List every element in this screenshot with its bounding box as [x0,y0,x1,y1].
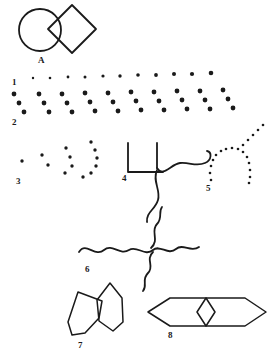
dot [180,98,185,103]
dot [93,148,96,151]
dot [95,156,98,159]
dot [226,97,231,102]
dot [231,106,236,111]
dot [81,175,84,178]
figure-label-1: 1 [12,78,17,87]
dot [247,139,250,142]
dot [220,150,223,153]
dot [262,124,265,127]
dot [212,159,215,162]
dot [88,100,93,105]
dot [248,182,251,185]
dot [221,88,226,93]
dot [172,72,176,76]
dot [237,148,240,151]
panel-5-dotted-arc [209,124,265,185]
dot [246,156,249,159]
dot-triplet [37,92,52,115]
figure-plate: A 1 2 3 4 5 6 7 8 [0,0,273,356]
dot-triplet [175,89,190,112]
dot [22,110,27,115]
dot [37,92,42,97]
dot [49,77,52,80]
dot [65,101,70,106]
dot [210,179,213,182]
dot [129,90,134,95]
dot [139,108,144,113]
panel-1-dot-row [32,71,214,80]
dot [93,109,98,114]
dot [136,73,140,77]
dot [231,147,234,150]
dot [225,148,228,151]
dot [83,91,88,96]
dot-triplet [129,90,144,113]
figure-label-3: 3 [16,177,21,186]
dot [162,108,167,113]
dot [152,90,157,95]
inner-diamond [197,298,215,326]
dot-triplet [83,91,98,114]
dot [157,99,162,104]
dot [70,110,75,115]
figure-label-4: 4 [122,174,127,183]
dot-triplet [106,91,121,114]
circle-shape [19,9,61,51]
dot-triplet [221,88,236,111]
dot [20,159,23,162]
dot-cluster [20,159,23,162]
diamond-shape [48,5,96,53]
dot [46,163,49,166]
dot [118,74,121,77]
dot [257,129,260,132]
wave-lower-branch [143,252,153,291]
dot [209,172,212,175]
figure-label-7: 7 [78,341,83,350]
dot [134,99,139,104]
dot [175,89,180,94]
dot [252,134,255,137]
dot [32,77,34,79]
dot-triplet [60,92,75,115]
dot [208,107,213,112]
dot [185,107,190,112]
dot [154,73,158,77]
wave-upper-branch [151,207,162,248]
dot [42,101,47,106]
panel-8-hexagon [148,298,266,326]
dot-triplet [198,89,213,112]
wave-horizontal [79,247,199,252]
dot [94,164,97,167]
figure-label-5: 5 [206,184,211,193]
figure-label-8: 8 [168,331,173,340]
dot [12,92,17,97]
dot-triplet [12,92,27,115]
dot-cluster [63,146,73,174]
panel-4-bracket-wave [128,143,211,222]
panel-3-dot-arcs [20,140,98,178]
dot [101,74,104,77]
dot [60,92,65,97]
dot [215,154,218,157]
dot [209,71,214,76]
dot [70,164,73,167]
dot [40,153,43,156]
dot [89,140,92,143]
dot [210,165,213,168]
dot [198,89,203,94]
hexagon-outline [148,298,266,326]
wave-down-branch [147,170,159,222]
dot [47,110,52,115]
dot [68,155,71,158]
dot [17,101,22,106]
figure-label-2: 2 [12,118,17,127]
dot-cluster [81,140,98,178]
dot [203,98,208,103]
dot [116,109,121,114]
dot [64,146,67,149]
panel-6-crossing-waves [79,207,199,291]
figure-label-6: 6 [85,265,90,274]
dot [84,76,87,79]
dot [67,76,70,79]
dot-triplet [152,90,167,113]
